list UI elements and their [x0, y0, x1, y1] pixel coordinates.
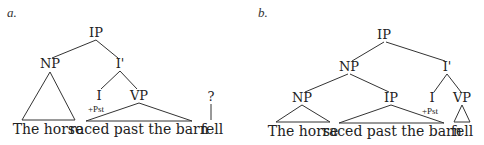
- tree-b-innernp-triangle: [276, 105, 330, 122]
- tree-b-rel-ip-node: IP: [384, 90, 398, 105]
- tree-a-branch-ip-ibar: [96, 40, 118, 58]
- tree-a-tag: a.: [7, 5, 17, 20]
- tree-b-ip-node: IP: [377, 27, 391, 42]
- tree-a-i-node: I: [96, 88, 101, 103]
- tree-b-vp-triangle: [454, 105, 470, 122]
- tree-b-branch-ip-np: [352, 42, 384, 61]
- tree-b-np-node: NP: [339, 59, 359, 74]
- tree-b-i-node: I: [429, 90, 434, 105]
- tree-a-branch-ibar-vp: [120, 71, 137, 89]
- tree-a-word-fell: fell: [201, 121, 224, 137]
- tree-a-np-triangle: [22, 72, 75, 120]
- tree-a-vp-node: VP: [129, 88, 148, 103]
- tree-b-word-fell: fell: [451, 123, 474, 139]
- tree-a-ibar-node: I': [116, 56, 125, 71]
- tree-b-pst-feature: +Pst: [422, 106, 439, 116]
- tree-b-vp-node: VP: [452, 90, 471, 105]
- tree-b-word-relative: raced past the barn: [322, 123, 462, 139]
- tree-a-pst-feature: +Pst: [88, 104, 105, 114]
- tree-b: b. IP NP I' NP IP I +Pst VP The horse ra…: [258, 5, 474, 139]
- tree-b-branch-np-innernp: [305, 74, 348, 92]
- tree-a-unknown-node: ?: [208, 89, 215, 104]
- tree-b-branch-ip-ibar: [386, 42, 445, 61]
- syntax-tree-diagram: a. IP NP I' I +Pst VP ? The horse raced …: [0, 0, 484, 145]
- tree-b-branch-np-relip: [350, 74, 389, 92]
- tree-a: a. IP NP I' I +Pst VP ? The horse raced …: [7, 5, 224, 137]
- tree-a-word-predicate: raced past the barn: [69, 121, 209, 137]
- tree-b-inner-np-node: NP: [292, 90, 312, 105]
- tree-a-ip-node: IP: [89, 25, 103, 40]
- tree-a-np-node: NP: [40, 56, 60, 71]
- tree-a-branch-ip-np: [52, 40, 96, 58]
- tree-b-tag: b.: [258, 5, 268, 20]
- tree-b-ibar-node: I': [443, 59, 452, 74]
- tree-b-branch-ibar-i: [434, 74, 447, 92]
- tree-a-branch-ibar-i: [101, 71, 120, 89]
